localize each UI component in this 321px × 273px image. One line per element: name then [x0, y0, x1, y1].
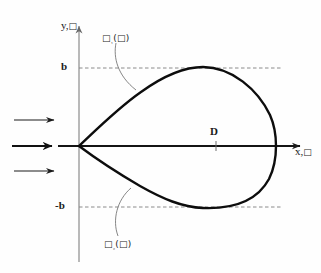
x-axis-label-symbol: □ [303, 148, 312, 157]
upper-contour-label-argument: (□) [113, 34, 129, 43]
lower-leader-line [116, 188, 131, 236]
lower-contour-label-argument: (□) [115, 240, 131, 249]
lower-contour-label: □₂(□) [104, 239, 132, 251]
y-axis-label-main: y, [61, 19, 69, 31]
tick-label-negative-b: -b [55, 200, 65, 211]
tick-label-b: b [61, 61, 67, 72]
upper-contour-label: □₁(□) [102, 33, 130, 45]
x-axis-label-main: x, [295, 145, 303, 157]
upper-leader-line [115, 43, 136, 90]
lower-contour-label-main: □ [104, 240, 113, 249]
y-axis-label: y,□ [61, 20, 77, 31]
figure-canvas: y,□ x,□ b -b D □₁(□) □₂(□) [0, 0, 321, 273]
body-contour-group [79, 67, 276, 208]
y-axis-label-symbol: □ [69, 22, 78, 31]
diagram-svg [0, 0, 321, 273]
lower-contour-curve [79, 146, 276, 208]
upper-contour-curve [79, 67, 276, 146]
leader-lines-group [115, 43, 136, 236]
upper-contour-label-main: □ [102, 34, 111, 43]
flow-arrows-group [12, 120, 54, 171]
x-axis-label: x,□ [295, 146, 312, 157]
region-label-d: D [210, 126, 218, 137]
